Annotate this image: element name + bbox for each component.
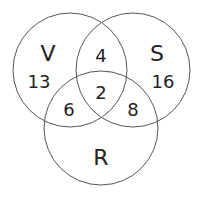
set-label-r: R xyxy=(93,145,108,170)
region-v-only: 13 xyxy=(28,71,51,92)
region-v-r: 6 xyxy=(63,99,74,120)
set-label-s: S xyxy=(150,41,164,66)
venn-diagram: V S R 13 16 4 6 8 2 xyxy=(0,0,197,197)
set-label-v: V xyxy=(40,41,55,66)
region-v-s: 4 xyxy=(95,45,106,66)
region-s-r: 8 xyxy=(127,99,138,120)
region-s-only: 16 xyxy=(152,71,175,92)
region-v-s-r: 2 xyxy=(95,82,106,103)
